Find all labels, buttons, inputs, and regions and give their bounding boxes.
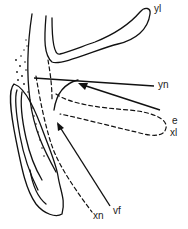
xl-dashed-loop — [56, 94, 166, 135]
dashed-mid — [36, 76, 92, 212]
label-e: e — [172, 116, 178, 126]
label-xn: xn — [93, 211, 104, 221]
e-arrowhead — [78, 83, 88, 90]
diagram-drawing — [0, 0, 188, 229]
dashed-left — [48, 60, 52, 100]
label-yn: yn — [158, 80, 169, 90]
vf-pointer — [58, 124, 110, 206]
label-vf: vf — [113, 206, 121, 216]
vf-arrowhead — [57, 122, 64, 131]
label-xl: xl — [170, 128, 177, 138]
yn-pointer — [34, 78, 154, 86]
yl-outline — [45, 8, 150, 62]
diagram: yl yn e xl xn vf — [0, 0, 188, 229]
label-yl: yl — [154, 4, 161, 14]
